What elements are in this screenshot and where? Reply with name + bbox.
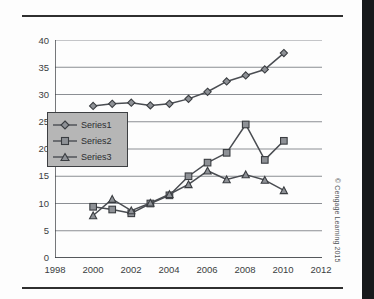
square-marker-icon bbox=[204, 159, 211, 166]
legend-item-series3: Series3 bbox=[52, 149, 112, 165]
x-tick-label: 2012 bbox=[301, 264, 341, 275]
y-tick-label: 10 bbox=[27, 198, 49, 209]
y-tick-label: 30 bbox=[27, 89, 49, 100]
y-tick-label: 0 bbox=[27, 252, 49, 263]
diamond-marker-icon bbox=[128, 99, 135, 106]
diamond-marker-icon bbox=[166, 100, 173, 107]
figure-container: 40 35 30 25 20 15 10 5 0 1998 2000 2002 … bbox=[0, 0, 374, 299]
triangle-marker-icon bbox=[242, 171, 249, 178]
y-tick-label: 15 bbox=[27, 170, 49, 181]
diamond-marker-icon bbox=[147, 102, 154, 109]
diamond-marker-icon bbox=[185, 95, 192, 102]
x-tick-label: 2008 bbox=[225, 264, 265, 275]
square-marker-icon bbox=[185, 173, 192, 180]
legend-label-series1: Series1 bbox=[81, 120, 112, 130]
triangle-marker-icon bbox=[52, 151, 78, 163]
diamond-marker-icon bbox=[223, 78, 230, 85]
copyright-notice: © Cengage Learning 2015 bbox=[334, 178, 341, 263]
right-edge-band bbox=[362, 0, 374, 299]
legend-label-series3: Series3 bbox=[81, 152, 112, 162]
y-tick-label: 5 bbox=[27, 225, 49, 236]
square-marker-icon bbox=[281, 138, 288, 145]
square-marker-icon bbox=[242, 121, 249, 128]
y-tick-label: 25 bbox=[27, 116, 49, 127]
x-tick-label: 2000 bbox=[73, 264, 113, 275]
triangle-marker-icon bbox=[280, 187, 287, 194]
legend-item-series2: Series2 bbox=[52, 133, 112, 149]
x-tick-label: 1998 bbox=[35, 264, 75, 275]
triangle-marker-icon bbox=[109, 196, 116, 203]
square-marker-icon bbox=[109, 206, 116, 213]
diamond-marker-icon bbox=[109, 100, 116, 107]
top-rule bbox=[22, 15, 343, 17]
legend-label-series2: Series2 bbox=[81, 136, 112, 146]
y-tick-label: 40 bbox=[27, 35, 49, 46]
legend-item-series1: Series1 bbox=[52, 117, 112, 133]
bottom-rule bbox=[22, 287, 343, 289]
x-tick-label: 2002 bbox=[111, 264, 151, 275]
series-series1 bbox=[90, 49, 288, 109]
square-marker-icon bbox=[223, 150, 230, 157]
x-tick-label: 2004 bbox=[149, 264, 189, 275]
chart-legend: Series1 Series2 Series3 bbox=[47, 112, 128, 167]
diamond-marker-icon bbox=[52, 119, 78, 131]
square-marker-icon bbox=[52, 135, 78, 147]
diamond-marker-icon bbox=[242, 72, 249, 79]
y-tick-label: 20 bbox=[27, 143, 49, 154]
diamond-marker-icon bbox=[90, 102, 97, 109]
y-tick-label: 35 bbox=[27, 62, 49, 73]
x-tick-label: 2006 bbox=[187, 264, 227, 275]
square-marker-icon bbox=[261, 157, 268, 164]
triangle-marker-icon bbox=[204, 167, 211, 174]
x-tick-label: 2010 bbox=[263, 264, 303, 275]
square-marker-icon bbox=[90, 203, 97, 210]
